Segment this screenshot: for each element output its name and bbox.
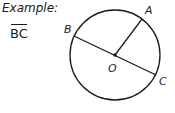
point-label-a: A: [144, 4, 153, 17]
center-label-o: O: [108, 62, 117, 75]
point-label-c: C: [159, 75, 167, 88]
center-point-dot: [113, 53, 117, 57]
radius-oa: [115, 19, 142, 55]
point-label-b: B: [64, 23, 72, 36]
circle-diagram: A B C O: [0, 0, 175, 113]
